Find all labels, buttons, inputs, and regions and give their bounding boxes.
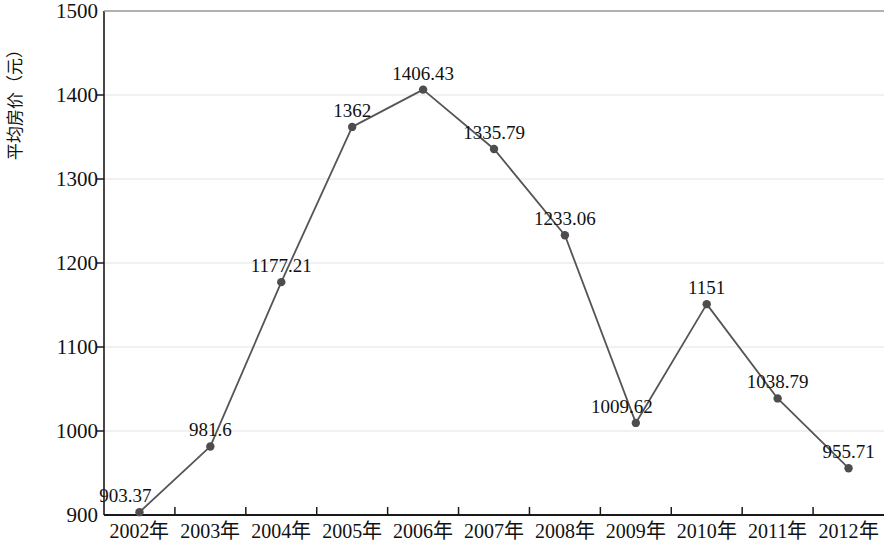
data-point-marker <box>135 508 143 516</box>
data-point-label: 1406.43 <box>392 64 454 83</box>
x-axis-tick-label: 2002年 <box>109 521 169 541</box>
data-point-label: 1233.06 <box>534 209 596 228</box>
x-axis-tick-label: 2010年 <box>677 521 737 541</box>
data-point-label: 1151 <box>688 278 725 297</box>
data-point-label: 1362 <box>333 101 371 120</box>
data-point-label: 1038.79 <box>747 372 809 391</box>
line-chart: 平均房价（元） 900100011001200130014001500 903.… <box>0 0 884 551</box>
data-point-label: 955.71 <box>822 442 874 461</box>
x-axis-tick-label: 2008年 <box>535 521 595 541</box>
data-point-label: 1009.62 <box>591 397 653 416</box>
x-axis-ticks <box>175 507 813 515</box>
data-point-marker <box>773 394 781 402</box>
x-axis-tick-label: 2009年 <box>606 521 666 541</box>
x-axis-tick-label: 2005年 <box>322 521 382 541</box>
data-point-label: 1335.79 <box>463 123 525 142</box>
data-point-label: 903.37 <box>99 486 151 505</box>
series-markers <box>135 85 852 516</box>
x-axis-tick-label: 2011年 <box>748 521 807 541</box>
data-point-marker <box>419 85 427 93</box>
data-point-marker <box>844 464 852 472</box>
data-point-marker <box>277 278 285 286</box>
data-point-marker <box>561 231 569 239</box>
data-point-marker <box>490 145 498 153</box>
data-point-marker <box>703 300 711 308</box>
data-point-label: 1177.21 <box>251 256 312 275</box>
data-point-label: 981.6 <box>189 420 232 439</box>
x-axis-tick-label: 2006年 <box>393 521 453 541</box>
x-axis-tick-label: 2012年 <box>819 521 879 541</box>
gridlines <box>104 11 884 431</box>
x-axis-tick-label: 2004年 <box>251 521 311 541</box>
x-axis-tick-label: 2003年 <box>180 521 240 541</box>
x-axis-tick-label: 2007年 <box>464 521 524 541</box>
data-point-marker <box>206 442 214 450</box>
data-point-marker <box>632 419 640 427</box>
data-point-marker <box>348 123 356 131</box>
y-axis-ticks <box>97 95 104 431</box>
